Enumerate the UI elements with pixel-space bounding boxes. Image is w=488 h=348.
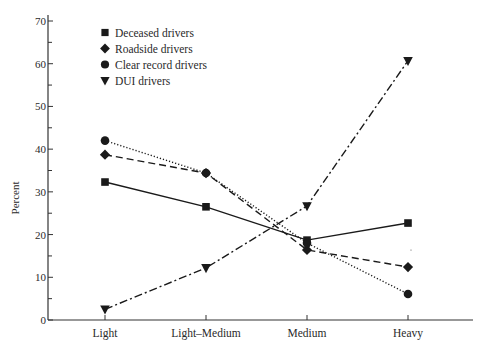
y-tick-label: 30 — [35, 186, 47, 198]
legend-label: Clear record drivers — [115, 59, 207, 71]
circle-marker-icon — [101, 136, 110, 145]
y-tick-label: 40 — [35, 143, 47, 155]
legend-label: Roadside drivers — [115, 43, 193, 55]
y-axis-title: Percent — [9, 182, 21, 215]
series-group — [100, 57, 413, 315]
x-tick-label: Medium — [288, 327, 327, 339]
triangle-down-marker-icon — [403, 57, 413, 66]
line-chart: 010203040506070LightLight–MediumMediumHe… — [0, 0, 488, 348]
stray-dot — [410, 249, 411, 250]
circle-marker-icon — [101, 60, 109, 68]
x-tick-label: Heavy — [393, 327, 423, 340]
series-roadside-drivers — [100, 150, 413, 273]
legend-item: Clear record drivers — [101, 59, 208, 71]
circle-marker-icon — [404, 290, 413, 299]
diamond-marker-icon — [403, 262, 413, 272]
triangle-down-marker-icon — [201, 264, 211, 273]
y-tick-label: 70 — [35, 15, 47, 27]
circle-marker-icon — [202, 169, 211, 178]
y-tick-label: 60 — [35, 58, 47, 70]
legend-label: Deceased drivers — [115, 27, 194, 39]
series-line — [105, 155, 408, 267]
square-marker-icon — [101, 29, 108, 36]
legend-item: Roadside drivers — [100, 43, 193, 55]
triangle-down-marker-icon — [100, 306, 110, 315]
series-dui-drivers — [100, 57, 413, 315]
triangle-down-marker-icon — [302, 202, 312, 211]
y-tick-label: 10 — [35, 271, 47, 283]
legend-item: Deceased drivers — [101, 27, 194, 39]
square-marker-icon — [202, 203, 210, 211]
y-tick-label: 20 — [35, 229, 47, 241]
chart-canvas: 010203040506070LightLight–MediumMediumHe… — [0, 0, 488, 348]
legend: Deceased driversRoadside driversClear re… — [100, 27, 207, 87]
x-tick-label: Light–Medium — [171, 327, 241, 340]
square-marker-icon — [404, 219, 412, 227]
series-clear-record-drivers — [101, 136, 413, 298]
circle-marker-icon — [303, 239, 312, 248]
legend-label: DUI drivers — [115, 75, 171, 87]
triangle-down-marker-icon — [100, 77, 109, 86]
y-tick-label: 0 — [41, 314, 47, 326]
diamond-marker-icon — [100, 150, 110, 160]
legend-item: DUI drivers — [100, 75, 170, 87]
diamond-marker-icon — [100, 44, 110, 54]
x-tick-label: Light — [93, 327, 119, 340]
series-line — [105, 61, 408, 310]
square-marker-icon — [101, 178, 109, 186]
y-tick-label: 50 — [35, 100, 47, 112]
